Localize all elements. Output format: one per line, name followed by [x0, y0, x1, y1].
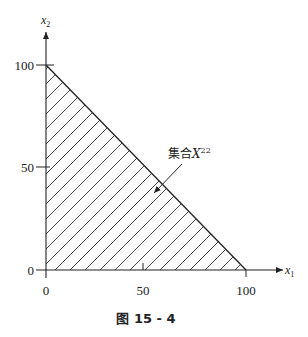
x-axis-label: x1	[284, 263, 294, 279]
y-tick-50: 50	[21, 160, 34, 175]
x-tick-0: 0	[43, 283, 50, 298]
y-tick-100: 100	[15, 58, 35, 73]
figure-caption: 图 15 - 4	[116, 311, 175, 326]
set-pointer-arrow	[154, 164, 182, 193]
set-label: 集合X22	[168, 146, 211, 161]
x-tick-100: 100	[236, 283, 256, 298]
x-tick-50: 50	[137, 283, 150, 298]
y-axis-label: x2	[40, 13, 50, 29]
y-tick-0: 0	[28, 263, 35, 278]
feasible-set-diagram: x2 x1 100 50 0 0 50 100 集合X22 图 15 - 4	[0, 0, 308, 337]
